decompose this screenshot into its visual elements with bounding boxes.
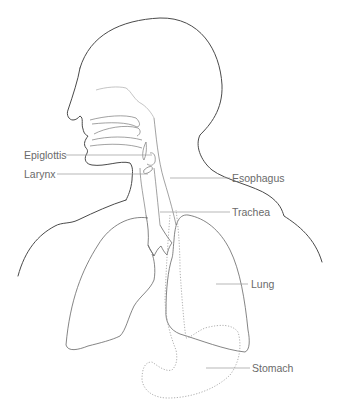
oral-nasal-structures [90, 87, 176, 225]
anatomy-diagram [0, 0, 342, 414]
esophagus-stomach [142, 210, 240, 398]
lungs [66, 215, 249, 352]
label-larynx: Larynx [24, 168, 56, 180]
label-epiglottis: Epiglottis [24, 149, 67, 161]
label-esophagus: Esophagus [232, 172, 285, 184]
leader-lines [57, 155, 250, 368]
label-stomach: Stomach [252, 362, 293, 374]
label-trachea: Trachea [232, 206, 270, 218]
label-lung: Lung [251, 278, 274, 290]
body-outline [18, 18, 322, 276]
